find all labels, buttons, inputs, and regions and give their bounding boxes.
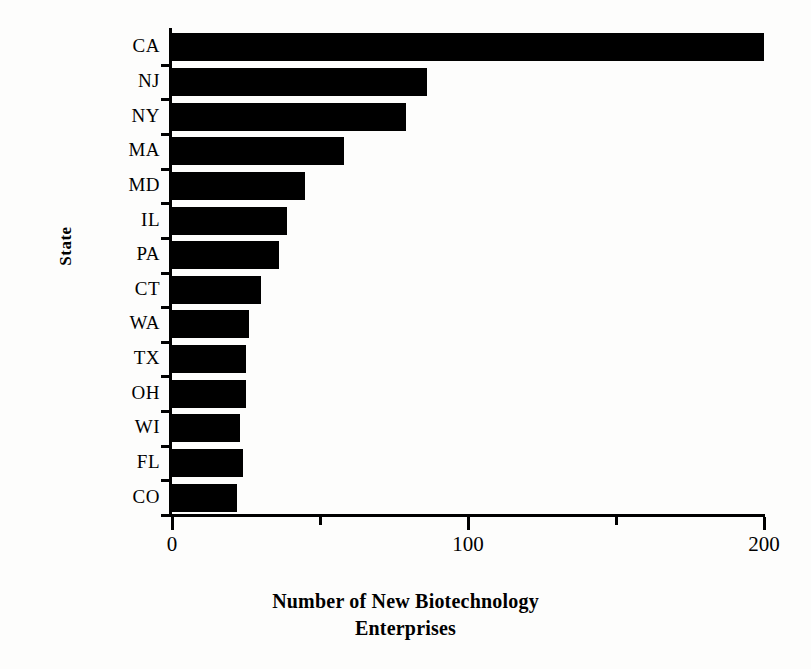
bar-row: [172, 137, 764, 165]
y-axis-tick: [161, 98, 170, 101]
y-axis-title: State: [52, 186, 80, 306]
y-axis-label-il: IL: [100, 209, 160, 231]
y-axis-label-oh: OH: [100, 382, 160, 404]
y-axis-tick-labels: CANJNYMAMDILPACTWATXOHWIFLCO: [88, 30, 160, 515]
x-axis-tick-label-0: 0: [132, 532, 212, 557]
bar-fl: [172, 449, 243, 477]
y-axis-label-ny: NY: [100, 105, 160, 127]
y-axis-label-nj: NJ: [100, 70, 160, 92]
y-axis-tick: [161, 64, 170, 67]
bar-row: [172, 207, 764, 235]
bar-row: [172, 103, 764, 131]
y-axis-label-wa: WA: [100, 312, 160, 334]
bar-tx: [172, 345, 246, 373]
bar-nj: [172, 68, 427, 96]
bar-row: [172, 380, 764, 408]
bar-row: [172, 68, 764, 96]
y-axis-label-ct: CT: [100, 278, 160, 300]
page-title: [0, 0, 811, 3]
y-axis-label-pa: PA: [100, 243, 160, 265]
x-axis-title: Number of New Biotechnology Enterprises: [0, 588, 811, 642]
bar-wi: [172, 414, 240, 442]
bar-row: [172, 276, 764, 304]
x-axis-tick-label-100: 100: [428, 532, 508, 557]
bar-row: [172, 172, 764, 200]
bar-row: [172, 33, 764, 61]
y-axis-tick: [161, 168, 170, 171]
x-axis-tick-150: [615, 517, 618, 525]
y-axis-label-md: MD: [100, 174, 160, 196]
y-axis-tick: [161, 479, 170, 482]
y-axis-tick: [161, 514, 170, 517]
y-axis-tick: [161, 237, 170, 240]
bar-oh: [172, 380, 246, 408]
y-axis-label-ma: MA: [100, 139, 160, 161]
y-axis-label-co: CO: [100, 486, 160, 508]
y-axis-tick: [161, 272, 170, 275]
x-axis-tick-0: [171, 517, 174, 530]
bar-wa: [172, 310, 249, 338]
bar-ma: [172, 137, 344, 165]
bar-row: [172, 345, 764, 373]
x-axis-title-line-1: Number of New Biotechnology: [0, 588, 811, 615]
bar-md: [172, 172, 305, 200]
y-axis-tick: [161, 202, 170, 205]
bar-pa: [172, 241, 279, 269]
y-axis-label-ca: CA: [100, 35, 160, 57]
x-axis-tick-label-200: 200: [724, 532, 804, 557]
y-axis-tick: [161, 306, 170, 309]
bar-il: [172, 207, 287, 235]
x-axis-tick-100: [467, 517, 470, 530]
y-axis-tick: [161, 445, 170, 448]
bar-row: [172, 241, 764, 269]
plot-area: [172, 30, 764, 515]
bar-ca: [172, 33, 764, 61]
bar-row: [172, 310, 764, 338]
bar-row: [172, 414, 764, 442]
y-axis-label-wi: WI: [100, 416, 160, 438]
y-axis-tick: [161, 341, 170, 344]
bar-chart-figure: State CANJNYMAMDILPACTWATXOHWIFLCO Numbe…: [0, 0, 811, 669]
y-axis-tick: [161, 133, 170, 136]
bar-ct: [172, 276, 261, 304]
bar-co: [172, 484, 237, 512]
y-axis-label-fl: FL: [100, 451, 160, 473]
bar-row: [172, 484, 764, 512]
x-axis-tick-50: [319, 517, 322, 525]
x-axis-title-line-2: Enterprises: [0, 615, 811, 642]
y-axis-label-tx: TX: [100, 347, 160, 369]
y-axis-tick: [161, 375, 170, 378]
bar-ny: [172, 103, 406, 131]
y-axis-tick: [161, 410, 170, 413]
x-axis-tick-200: [763, 517, 766, 530]
bar-row: [172, 449, 764, 477]
